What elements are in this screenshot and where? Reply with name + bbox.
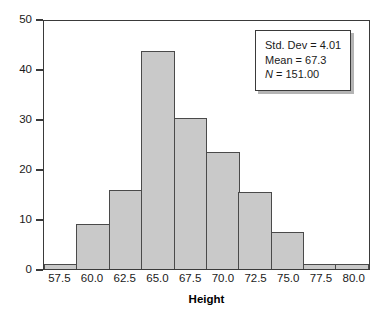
x-axis-tick-label: 75.0 (272, 273, 305, 293)
histogram-bar (206, 152, 240, 269)
y-axis-tick-mark (36, 69, 43, 71)
y-axis-tick-mark (36, 219, 43, 221)
y-axis-tick-mark (36, 169, 43, 171)
y-axis-tick-label: 0 (26, 264, 36, 276)
y-axis-tick-label: 20 (19, 164, 36, 176)
x-axis-tick-label: 67.5 (174, 273, 207, 293)
histogram-bar (44, 264, 78, 269)
x-axis-tick-label: 62.5 (108, 273, 141, 293)
n-symbol: N (265, 68, 273, 80)
x-axis-tick-label: 65.0 (141, 273, 174, 293)
histogram-bar (174, 118, 208, 269)
x-axis: 57.560.062.565.067.570.072.575.077.580.0 (43, 273, 370, 293)
y-axis-tick-label: 50 (19, 14, 36, 26)
n-value: 151.00 (286, 68, 320, 80)
histogram-bar (271, 232, 305, 269)
x-axis-tick-label: 70.0 (207, 273, 240, 293)
x-axis-tick-label: 80.0 (337, 273, 370, 293)
y-axis-tick-mark (36, 269, 43, 271)
histogram-bar (141, 51, 175, 269)
mean-label: Mean = (265, 54, 305, 66)
y-axis-tick-mark (36, 119, 43, 121)
stats-line-mean: Mean = 67.3 (265, 53, 341, 68)
x-axis-tick-label: 60.0 (76, 273, 109, 293)
stats-legend-box: Std. Dev = 4.01 Mean = 67.3 N = 151.00 (255, 30, 351, 91)
x-axis-tick-label: 77.5 (305, 273, 338, 293)
n-label: = (273, 68, 286, 80)
y-axis: 01020304050 (0, 20, 43, 270)
stats-line-std-dev: Std. Dev = 4.01 (265, 38, 341, 53)
std-dev-label: Std. Dev = (265, 39, 320, 51)
std-dev-value: 4.01 (320, 39, 341, 51)
x-axis-title: Height (43, 293, 370, 305)
stats-line-n: N = 151.00 (265, 67, 341, 82)
histogram-bar (76, 224, 110, 269)
y-axis-tick-mark (36, 19, 43, 21)
y-axis-tick-label: 30 (19, 114, 36, 126)
mean-value: 67.3 (305, 54, 326, 66)
histogram-bar (303, 264, 337, 269)
y-axis-tick-label: 40 (19, 64, 36, 76)
x-axis-tick-label: 72.5 (239, 273, 272, 293)
histogram-bar (335, 264, 369, 269)
histogram-bar (109, 190, 143, 269)
histogram-figure: 01020304050 57.560.062.565.067.570.072.5… (0, 0, 384, 329)
x-axis-tick-label: 57.5 (43, 273, 76, 293)
y-axis-tick-label: 10 (19, 214, 36, 226)
histogram-bar (238, 192, 272, 269)
